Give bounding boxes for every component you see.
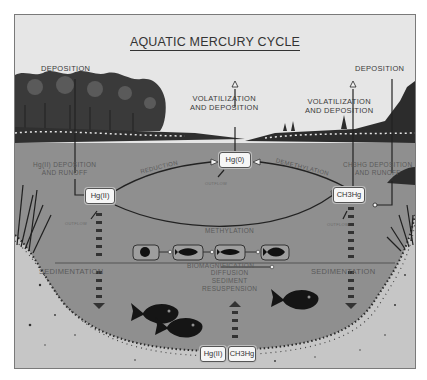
plankton-icon [140, 247, 150, 257]
species-hg0-box: Hg(0) [219, 152, 251, 168]
label-ch3hg-deposition-runoff: CH3HG DEPOSITIONAND RUNOFF [343, 161, 412, 177]
label-outflow-center: OUTFLOW [205, 179, 227, 188]
label-methylation: METHYLATION [205, 226, 254, 235]
label-volatilization-right: VOLATILIZATIONAND DEPOSITION [305, 97, 373, 115]
diagram-frame: AQUATIC MERCURY CYCLE DEPOSITION DEPOSIT… [14, 14, 416, 369]
label-sedimentation-right: SEDIMENTATION [311, 267, 375, 276]
species-ch3hg-box: CH3Hg [333, 187, 365, 203]
label-deposition-right: DEPOSITION [355, 64, 404, 73]
label-volatilization-center: VOLATILIZATIONAND DEPOSITION [190, 94, 258, 112]
label-outflow-left: OUTFLOW [65, 219, 87, 228]
sediment-hg2-box: Hg(II) [200, 346, 226, 362]
label-diffusion-resuspension: DIFFUSIONSEDIMENTRESUSPENSION [202, 269, 257, 293]
sediment-ch3hg-box: CH3Hg [228, 346, 256, 362]
label-hg2-deposition-runoff: Hg(II) DEPOSITIONAND RUNOFF [33, 161, 96, 177]
diagram-title: AQUATIC MERCURY CYCLE [15, 35, 415, 49]
label-deposition-left: DEPOSITION [41, 64, 90, 73]
label-outflow-right: OUTFLOW [327, 220, 349, 229]
species-hg2-box: Hg(II) [85, 188, 115, 204]
label-sedimentation-left: SEDIMENTATION [39, 267, 103, 276]
